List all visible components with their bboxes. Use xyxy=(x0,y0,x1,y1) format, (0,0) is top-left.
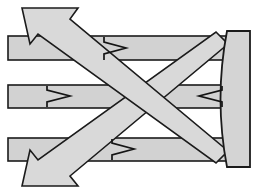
concave-mirror-group xyxy=(221,31,251,167)
concave-mirror xyxy=(221,31,251,167)
ray-diagram-canvas: Concave mirror ray diagram xyxy=(0,0,255,194)
optics-ray-diagram: Concave mirror ray diagram xyxy=(0,0,255,194)
